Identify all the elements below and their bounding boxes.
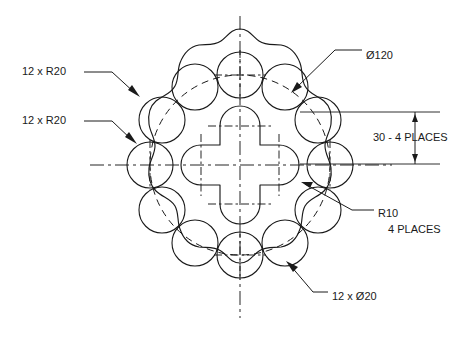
scallop-upper-arrowhead [128,85,140,97]
hole-8 [172,220,218,266]
corner-radius-label-1: R10 [378,207,398,219]
scallop-lower-label: 12 x R20 [22,114,66,126]
bolt-circle-callout: Ø120 [291,49,393,93]
hole-label: 12 x Ø20 [332,290,377,302]
arm-width-dimension: 30 - 4 PLACES [300,112,448,164]
hole-5 [295,187,341,233]
hole-callout: 12 x Ø20 [286,261,377,302]
engineering-drawing-canvas: 30 - 4 PLACES 12 x R20 12 x R20 Ø120 R10… [0,0,475,340]
scallop-lower-callout: 12 x R20 [22,114,137,144]
hole-6 [262,220,308,266]
centerlines [90,16,392,318]
scallop-lower-arrowhead [125,132,137,144]
scallop-upper-leader [84,72,136,94]
dim-arrow-bottom [412,154,418,162]
bolt-circle-label: Ø120 [366,49,393,61]
corner-radius-label-2: 4 PLACES [388,223,441,235]
scallop-lower-leader [84,121,133,141]
scallop-upper-callout: 12 x R20 [22,65,140,97]
arm-width-label: 30 - 4 PLACES [373,131,448,143]
hole-9 [139,187,185,233]
bolt-circle-leader [295,50,362,89]
drawing-svg: 30 - 4 PLACES 12 x R20 12 x R20 Ø120 R10… [0,0,475,340]
dim-arrow-top [412,114,418,122]
corner-radius-callout: R10 4 PLACES [301,182,441,235]
scallop-upper-label: 12 x R20 [22,65,66,77]
